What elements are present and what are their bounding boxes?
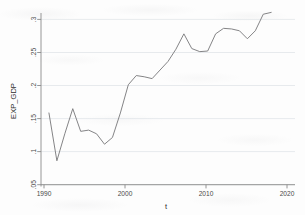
y-tick-label: .25 <box>30 48 37 57</box>
x-tick-labels: 1990 2000 2010 2020 <box>37 190 295 197</box>
x-axis-title: t <box>165 202 168 211</box>
gridlines <box>41 19 295 184</box>
x-tick-label: 2010 <box>199 190 214 197</box>
x-axis <box>41 185 295 189</box>
x-tick-label: 2000 <box>118 190 133 197</box>
y-axis <box>37 13 41 187</box>
y-tick-label: .3 <box>30 16 37 22</box>
y-tick-label: .2 <box>30 82 37 88</box>
y-tick-label: .15 <box>30 114 37 123</box>
x-tick-label: 1990 <box>37 190 52 197</box>
y-axis-title: EXP_GDP <box>9 83 18 119</box>
y-tick-label: .05 <box>30 180 37 189</box>
y-tick-labels: .3 .25 .2 .15 .1 .05 <box>30 16 37 189</box>
line-chart-svg: .3 .25 .2 .15 .1 .05 EXP_GDP 1990 2000 2… <box>0 0 305 215</box>
data-series-line <box>49 12 271 160</box>
x-tick-label: 2020 <box>280 190 295 197</box>
y-tick-label: .1 <box>30 149 37 155</box>
chart-figure: .3 .25 .2 .15 .1 .05 EXP_GDP 1990 2000 2… <box>0 0 305 215</box>
